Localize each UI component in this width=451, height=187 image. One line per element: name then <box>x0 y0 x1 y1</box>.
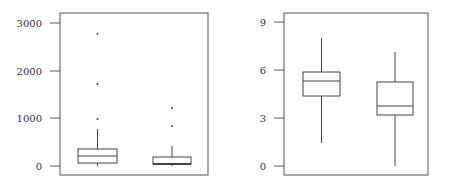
left-tick-label-3000: 3000 <box>17 18 42 29</box>
right-tick-label-3: 3 <box>260 113 266 124</box>
left-plot-frame <box>60 13 208 175</box>
right-boxplot-chart: 9 6 3 0 <box>260 13 428 175</box>
right-box-2 <box>377 52 413 166</box>
left-box-2 <box>153 146 191 166</box>
right-plot-frame <box>284 13 428 175</box>
left-tick-label-0: 0 <box>36 161 42 172</box>
figure: 3000 2000 1000 0 <box>0 0 451 187</box>
left-box-2-outliers <box>171 107 173 127</box>
right-y-axis <box>274 22 284 166</box>
right-tick-label-9: 9 <box>260 17 266 28</box>
left-tick-label-1000: 1000 <box>17 113 42 124</box>
right-tick-label-0: 0 <box>260 161 266 172</box>
right-tick-label-6: 6 <box>260 65 266 76</box>
left-tick-label-2000: 2000 <box>17 66 42 77</box>
right-box-1 <box>303 38 340 143</box>
left-box-1 <box>78 129 117 166</box>
left-y-axis <box>50 23 60 166</box>
left-box-1-outliers <box>97 33 99 120</box>
left-boxplot-chart: 3000 2000 1000 0 <box>17 13 208 175</box>
